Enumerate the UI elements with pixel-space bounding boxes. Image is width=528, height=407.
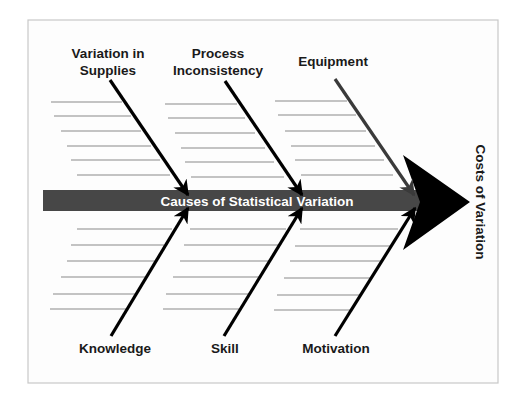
cause-label-motivation: Motivation bbox=[302, 341, 370, 356]
effect-label: Costs of Variation bbox=[473, 145, 488, 260]
cause-label-skill: Skill bbox=[211, 341, 239, 356]
spine-label: Causes of Statistical Variation bbox=[161, 194, 354, 209]
cause-label-knowledge: Knowledge bbox=[79, 341, 151, 356]
cause-label-process-line1: Process bbox=[192, 46, 245, 61]
cause-label-equipment: Equipment bbox=[298, 54, 368, 69]
cause-label-supplies-line1: Variation in bbox=[72, 46, 145, 61]
cause-label-supplies-line2: Supplies bbox=[80, 63, 136, 78]
cause-label-process-line2: Inconsistency bbox=[173, 63, 264, 78]
fishbone-diagram: Causes of Statistical Variation Variatio… bbox=[0, 0, 528, 407]
